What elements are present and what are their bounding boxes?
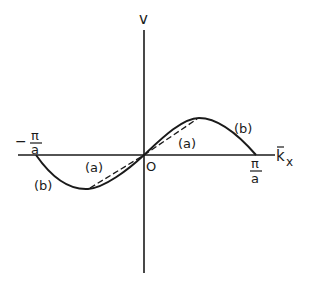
label-b-right: (b) [234,121,252,136]
tick-right-denominator: a [251,171,259,186]
tick-right-numerator: π [251,156,259,171]
x-axis-label: k [276,147,285,165]
y-axis-label: v [139,10,148,28]
tick-left-neg-pi-over-a: − π a [15,128,42,157]
tick-right-pi-over-a: π a [250,156,262,186]
label-a-left: (a) [85,160,103,175]
label-a-right: (a) [178,136,196,151]
tick-left-numerator: π [31,128,39,143]
dispersion-diagram: v O k x − π a π a (a) (b) (a) (b) [0,0,309,288]
label-b-left: (b) [34,178,52,193]
x-axis-subscript: x [286,155,293,169]
origin-label: O [146,159,156,174]
tick-left-sign: − [15,133,27,149]
tick-left-denominator: a [31,142,39,157]
